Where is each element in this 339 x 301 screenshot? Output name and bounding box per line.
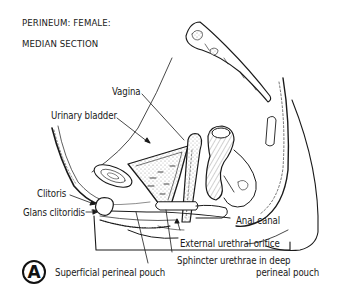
label-external-urethral-orifice: External urethral orifice — [180, 238, 280, 249]
label-vagina: Vagina — [112, 86, 141, 97]
label-anal-canal: Anal canal — [236, 215, 280, 226]
clitoris-structure — [96, 198, 114, 216]
diagram-title-line2: MEDIAN SECTION — [22, 39, 98, 49]
diagram-title-line1: PERINEUM: FEMALE: — [22, 18, 111, 28]
sacrum-coccyx — [186, 22, 276, 146]
label-urinary-bladder: Urinary bladder — [51, 110, 117, 121]
label-glans-clitoridis: Glans clitoridis — [23, 207, 85, 218]
rectum — [206, 126, 256, 207]
figure-letter: A — [27, 262, 40, 282]
label-sphincter-urethrae-line2: perineal pouch — [256, 267, 319, 278]
label-sphincter-urethrae-line1: Sphincter urethrae in deep — [177, 255, 291, 266]
figure-letter-badge: A — [22, 260, 46, 284]
urinary-bladder — [128, 146, 188, 208]
label-clitoris: Clitoris — [37, 188, 66, 199]
label-superficial-perineal-pouch: Superficial perineal pouch — [55, 267, 165, 278]
